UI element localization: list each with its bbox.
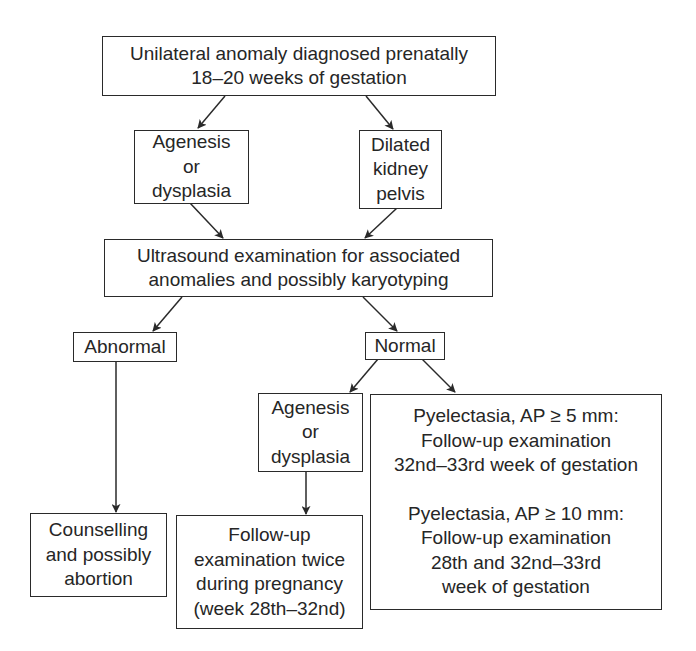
node-normal: Normal bbox=[365, 332, 445, 360]
node-text: abortion bbox=[64, 567, 133, 592]
node-text: Agenesis bbox=[152, 130, 230, 155]
arrow-ultrasound-to-abnormal bbox=[153, 297, 182, 331]
node-text: Counselling bbox=[49, 518, 148, 543]
node-text: (week 28th–32nd) bbox=[193, 597, 345, 622]
node-text: and possibly bbox=[46, 543, 152, 568]
node-text: 28th and 32nd–33rd bbox=[431, 551, 601, 576]
node-text: Follow-up examination bbox=[421, 429, 611, 454]
node-text: dysplasia bbox=[152, 179, 231, 204]
node-text: Follow-up examination bbox=[421, 526, 611, 551]
arrow-ultrasound-to-normal bbox=[363, 297, 397, 331]
node-text: pelvis bbox=[376, 182, 425, 207]
node-text: Normal bbox=[374, 334, 435, 359]
flowchart-canvas: Unilateral anomaly diagnosed prenatally … bbox=[0, 0, 696, 651]
node-root: Unilateral anomaly diagnosed prenatally … bbox=[102, 36, 496, 96]
arrow-root-to-agenesis bbox=[198, 96, 225, 128]
node-text: Pyelectasia, AP ≥ 10 mm: bbox=[408, 502, 624, 527]
node-agenesis-top: Agenesis or dysplasia bbox=[134, 130, 249, 204]
node-text: or bbox=[302, 420, 319, 445]
node-text: examination twice bbox=[194, 548, 345, 573]
node-text: during pregnancy bbox=[196, 572, 343, 597]
node-text: 18–20 weeks of gestation bbox=[191, 66, 407, 91]
arrow-root-to-dilated bbox=[366, 96, 393, 129]
node-dilated-kidney-pelvis: Dilated kidney pelvis bbox=[359, 130, 442, 209]
node-text: Ultrasound examination for associated bbox=[137, 244, 460, 269]
node-counselling: Counselling and possibly abortion bbox=[30, 513, 167, 597]
node-text: or bbox=[183, 155, 200, 180]
node-text: Dilated bbox=[371, 133, 430, 158]
node-ultrasound: Ultrasound examination for associated an… bbox=[104, 239, 493, 297]
node-text: week of gestation bbox=[442, 575, 590, 600]
arrow-dilated-to-ultrasound bbox=[365, 208, 397, 238]
node-text: 32nd–33rd week of gestation bbox=[394, 453, 638, 478]
node-text: Pyelectasia, AP ≥ 5 mm: bbox=[413, 404, 618, 429]
node-text: Unilateral anomaly diagnosed prenatally bbox=[130, 42, 468, 67]
node-followup-twice: Follow-up examination twice during pregn… bbox=[176, 515, 363, 629]
node-text: Agenesis bbox=[271, 396, 349, 421]
arrow-agenesis-to-ultrasound bbox=[190, 203, 223, 238]
node-text: Follow-up bbox=[228, 523, 310, 548]
node-text: dysplasia bbox=[271, 445, 350, 470]
node-agenesis-bottom: Agenesis or dysplasia bbox=[258, 393, 363, 472]
arrow-normal-to-agenesis bbox=[350, 359, 378, 392]
node-text: Abnormal bbox=[84, 335, 165, 360]
node-abnormal: Abnormal bbox=[73, 332, 177, 362]
node-pyelectasia: Pyelectasia, AP ≥ 5 mm: Follow-up examin… bbox=[370, 394, 662, 610]
node-text: anomalies and possibly karyotyping bbox=[149, 268, 449, 293]
node-text: kidney bbox=[373, 157, 428, 182]
arrow-normal-to-pyelectasia bbox=[422, 359, 455, 392]
